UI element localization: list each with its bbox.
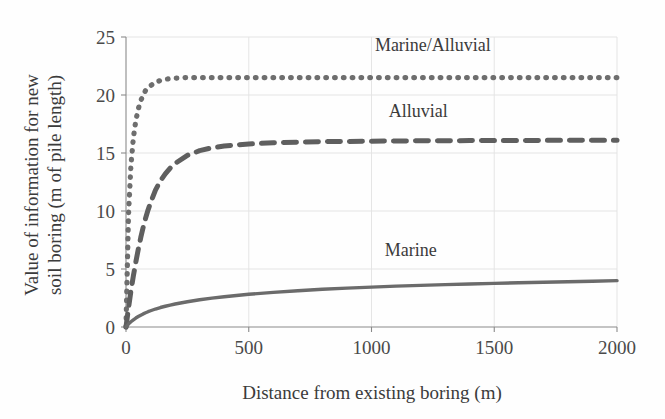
x-axis-ticks: 0500100015002000: [121, 327, 636, 358]
y-tick-label: 0: [106, 317, 116, 338]
x-tick-label: 1000: [353, 337, 391, 358]
series-label-marine-alluvial: Marine/Alluvial: [375, 35, 491, 55]
x-axis-title: Distance from existing boring (m): [242, 382, 502, 404]
y-tick-label: 25: [96, 27, 115, 48]
series-label-marine: Marine: [385, 240, 437, 260]
y-tick-label: 15: [96, 143, 115, 164]
series-annotations: Marine/AlluvialAlluvialMarine: [375, 35, 491, 260]
chart-figure: 0500100015002000 0510152025 Marine/Alluv…: [0, 0, 665, 419]
x-tick-label: 0: [121, 337, 131, 358]
value-of-information-line-chart: 0500100015002000 0510152025 Marine/Alluv…: [0, 0, 665, 419]
y-tick-label: 20: [96, 85, 115, 106]
y-axis-ticks: 0510152025: [96, 27, 126, 338]
y-tick-label: 5: [106, 259, 116, 280]
x-tick-label: 1500: [475, 337, 513, 358]
y-axis-title-line-1: Value of information for new: [21, 74, 42, 296]
y-axis-title-line-2: soil boring (m of pile length): [44, 75, 66, 295]
y-tick-label: 10: [96, 201, 115, 222]
series-label-alluvial: Alluvial: [389, 101, 448, 121]
x-tick-label: 500: [235, 337, 264, 358]
x-tick-label: 2000: [598, 337, 636, 358]
